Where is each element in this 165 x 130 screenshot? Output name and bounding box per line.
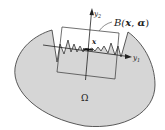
point-x-dot bbox=[87, 48, 90, 51]
diagram-canvas: B(x, α) y2 y1 x Ω bbox=[0, 0, 165, 130]
box-label: B(x, α) bbox=[113, 17, 149, 28]
point-x-label: x bbox=[91, 37, 97, 46]
domain-omega-region bbox=[15, 30, 155, 127]
axis-y2-label: y2 bbox=[93, 10, 101, 19]
domain-omega-label: Ω bbox=[81, 93, 88, 103]
box-label-leader bbox=[99, 22, 112, 31]
